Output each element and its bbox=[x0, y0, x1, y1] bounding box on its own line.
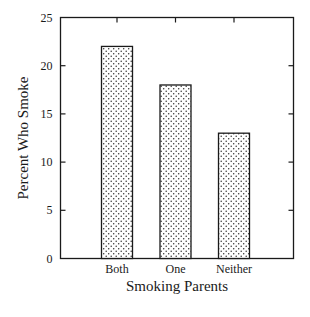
y-tick-label: 0 bbox=[47, 252, 53, 266]
x-tick-label-one: One bbox=[166, 262, 186, 276]
y-tick-label: 15 bbox=[41, 107, 53, 121]
bars bbox=[102, 46, 250, 258]
bar-one bbox=[160, 85, 191, 259]
x-axis-tick-labels: BothOneNeither bbox=[105, 262, 252, 276]
x-tick-label-both: Both bbox=[105, 262, 128, 276]
bar-both bbox=[102, 46, 133, 258]
y-tick-label: 10 bbox=[41, 155, 53, 169]
x-tick-label-neither: Neither bbox=[216, 262, 252, 276]
y-axis-tick-labels: 0510152025 bbox=[41, 11, 53, 266]
y-tick-label: 20 bbox=[41, 59, 53, 73]
x-axis-title: Smoking Parents bbox=[126, 278, 228, 294]
y-tick-label: 25 bbox=[41, 11, 53, 25]
x-axis-top-ticks bbox=[117, 18, 234, 23]
bar-chart: 0510152025 BothOneNeither Smoking Parent… bbox=[0, 0, 310, 317]
bar-neither bbox=[219, 133, 250, 258]
y-axis-title: Percent Who Smoke bbox=[15, 76, 31, 199]
y-tick-label: 5 bbox=[47, 203, 53, 217]
